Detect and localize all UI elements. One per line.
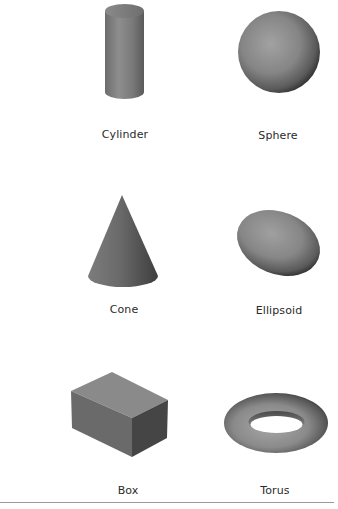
label-cone: Cone — [64, 303, 184, 316]
cone-shape — [88, 195, 158, 287]
label-ellipsoid: Ellipsoid — [219, 304, 338, 317]
label-box: Box — [68, 484, 188, 497]
label-torus: Torus — [215, 484, 335, 497]
shapes-canvas — [0, 0, 338, 509]
box-shape — [71, 372, 168, 457]
bottom-rule — [0, 502, 334, 503]
ellipsoid-shape — [227, 198, 330, 288]
sphere-shape — [238, 11, 320, 93]
cylinder-shape — [105, 4, 144, 99]
label-cylinder: Cylinder — [65, 128, 185, 141]
label-sphere: Sphere — [218, 129, 338, 142]
torus-shape — [224, 393, 328, 453]
